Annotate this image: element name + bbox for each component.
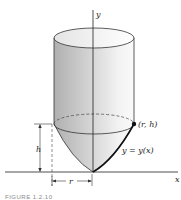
figure-caption: FIGURE 1.2.10: [5, 194, 53, 200]
h-arrow-down: [38, 168, 41, 172]
point-label: (r, h): [138, 120, 157, 129]
point-r-h: [132, 122, 136, 126]
height-label: h: [36, 145, 41, 154]
tank-figure: y x (r, h) y = y(x) h r FIGURE 1.2.10: [0, 0, 181, 200]
radius-label: r: [69, 177, 74, 186]
x-axis-label: x: [175, 175, 180, 184]
y-axis-label: y: [95, 10, 101, 19]
r-arrow-left: [52, 180, 56, 183]
cylinder-top-ellipse: [54, 28, 134, 48]
h-arrow-up: [38, 124, 41, 128]
r-arrow-right: [88, 180, 92, 183]
curve-label: y = y(x): [121, 146, 154, 155]
